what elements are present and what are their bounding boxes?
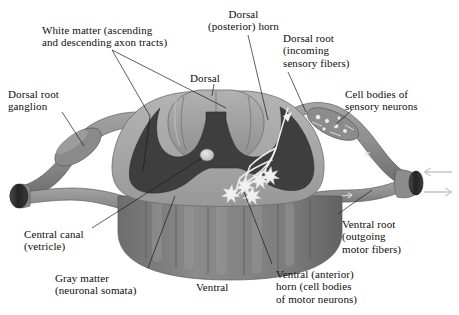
label-dorsal: Dorsal [190, 72, 220, 84]
peripheral-arrows [424, 168, 452, 196]
label-ventral: Ventral [196, 281, 228, 293]
central-canal-structure [200, 149, 214, 161]
label-ventral-root: Ventral root (outgoing motor fibers) [342, 218, 401, 255]
label-dorsal-root: Dorsal root (incoming sensory fibers) [283, 32, 350, 69]
label-gray-matter: Gray matter (neuronal somata) [55, 272, 136, 297]
cut-end-right [409, 171, 423, 195]
label-white-matter: White matter (ascending and descending a… [42, 24, 167, 49]
label-central-canal: Central canal (vetricle) [24, 228, 84, 253]
label-dorsal-posterior-horn: Dorsal (posterior) horn [208, 8, 279, 33]
label-cell-bodies-of-sensory-neurons: Cell bodies of sensory neurons [345, 88, 418, 113]
label-dorsal-root-ganglion: Dorsal root ganglion [8, 88, 59, 113]
label-ventral-anterior-horn: Ventral (anterior) horn (cell bodies of … [276, 268, 357, 305]
spinal-cord-figure: White matter (ascending and descending a… [0, 0, 459, 315]
cut-end-left [10, 184, 28, 208]
